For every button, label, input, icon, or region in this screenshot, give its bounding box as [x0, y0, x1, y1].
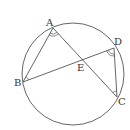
- angle-mark-A: [50, 32, 57, 34]
- segment-BD: [23, 48, 114, 82]
- angle-mark-B: [26, 77, 29, 80]
- point-label-D: D: [114, 36, 122, 47]
- segment-AC: [53, 28, 117, 97]
- figure-canvas: ABCDE: [0, 0, 130, 130]
- point-label-E: E: [77, 62, 84, 73]
- point-label-B: B: [14, 77, 21, 88]
- segment-DC: [114, 48, 117, 97]
- point-label-A: A: [45, 17, 54, 28]
- angle-mark-D: [108, 50, 114, 54]
- circumcircle: [22, 23, 124, 125]
- angle-mark-C: [113, 91, 117, 93]
- geometry-figure: ABCDE: [0, 0, 130, 130]
- segment-AB: [23, 28, 53, 82]
- point-label-C: C: [118, 96, 126, 107]
